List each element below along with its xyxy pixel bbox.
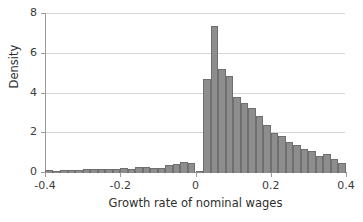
histogram-bar [248, 108, 256, 173]
histogram-bar [331, 159, 339, 173]
histogram-bar [53, 171, 61, 173]
histogram-bar [286, 142, 294, 173]
histogram-bar [203, 79, 211, 173]
histogram-bar [83, 169, 91, 173]
histogram-bar [128, 169, 136, 173]
histogram-bar [105, 169, 113, 173]
histogram-bar [165, 165, 173, 173]
histogram-bar [98, 169, 106, 173]
histogram-bar [180, 162, 188, 173]
histogram-bar [301, 149, 309, 173]
histogram-bar [233, 97, 241, 173]
x-tick-0.2 [271, 172, 272, 177]
y-tick-label-0: 0 [11, 166, 37, 177]
histogram-bar [158, 168, 166, 173]
histogram-figure: Density 02468 -0.4-0.200.20.4 Growth rat… [0, 0, 363, 222]
histogram-bar [68, 170, 76, 173]
histogram-bar [241, 103, 249, 173]
histogram-bar [308, 151, 316, 173]
histogram-bar [323, 154, 331, 173]
histogram-bar [226, 76, 234, 173]
histogram-bar [263, 125, 271, 173]
histogram-bar [271, 133, 279, 173]
x-tick-label-0.4: 0.4 [326, 180, 363, 192]
histogram-bar [120, 168, 128, 173]
x-tick--0.2 [120, 172, 121, 177]
histogram-bar [293, 145, 301, 173]
histogram-bar [45, 170, 53, 173]
y-tick-label-8: 8 [11, 7, 37, 18]
histogram-bars [45, 13, 346, 173]
histogram-bar [278, 136, 286, 173]
x-tick-label-0: 0 [176, 180, 216, 192]
x-axis-label: Growth rate of nominal wages [45, 197, 346, 210]
x-tick-label--0.2: -0.2 [100, 180, 140, 192]
histogram-bar [143, 167, 151, 173]
y-tick-label-2: 2 [11, 126, 37, 137]
histogram-bar [316, 156, 324, 173]
histogram-bar [60, 170, 68, 173]
histogram-bar [256, 116, 264, 173]
y-tick-label-4: 4 [11, 87, 37, 98]
histogram-bar [196, 171, 204, 173]
histogram-bar [150, 168, 158, 173]
histogram-bar [218, 69, 226, 173]
histogram-bar [173, 164, 181, 173]
histogram-bar [135, 167, 143, 173]
histogram-bar [75, 170, 83, 173]
x-tick-label-0.2: 0.2 [251, 180, 291, 192]
histogram-bar [188, 163, 196, 173]
histogram-bar [338, 163, 346, 173]
y-tick-label-6: 6 [11, 47, 37, 58]
histogram-bar [211, 26, 219, 173]
histogram-bar [113, 169, 121, 173]
histogram-bar [90, 169, 98, 173]
x-tick-label--0.4: -0.4 [25, 180, 65, 192]
x-tick--0.4 [45, 172, 46, 177]
x-tick-0.4 [346, 172, 347, 177]
x-tick-0 [196, 172, 197, 177]
